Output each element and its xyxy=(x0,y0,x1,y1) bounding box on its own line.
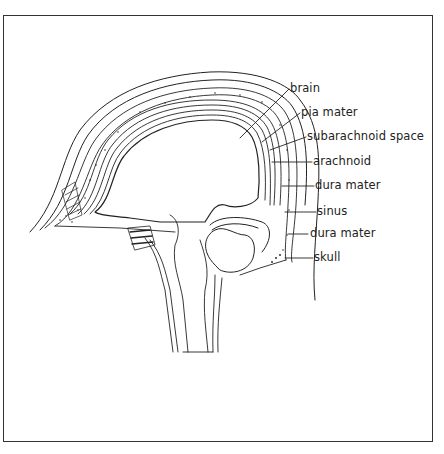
label-skull: skull xyxy=(314,252,340,264)
cerebellum xyxy=(206,217,270,272)
brainstem xyxy=(145,215,222,352)
label-subarachnoid-space: subarachnoid space xyxy=(307,131,424,143)
leader-subarachnoid xyxy=(270,137,306,150)
skull-stipple xyxy=(59,92,290,263)
meninges-drawing xyxy=(0,0,444,454)
label-sinus: sinus xyxy=(317,206,347,218)
brain-outline xyxy=(95,120,259,222)
frontal-sinus xyxy=(62,182,82,220)
label-dura-mater-1: dura mater xyxy=(315,180,381,192)
label-pia-mater: pia mater xyxy=(301,107,358,119)
leader-brain xyxy=(240,89,289,138)
label-dura-mater-2: dura mater xyxy=(310,228,376,240)
scalp xyxy=(30,72,319,300)
label-brain: brain xyxy=(290,83,320,95)
label-arachnoid: arachnoid xyxy=(313,156,371,168)
meningeal-layers xyxy=(70,100,281,214)
